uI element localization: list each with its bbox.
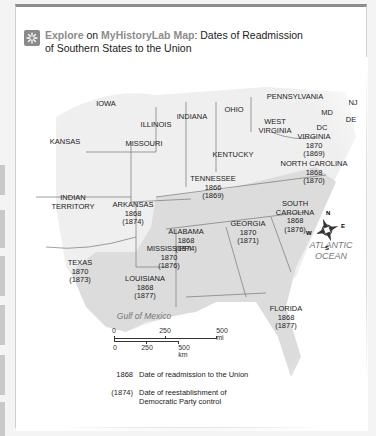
state-label-nj: NJ: [348, 99, 357, 108]
explore-link[interactable]: Explore: [45, 29, 84, 41]
state-label-ohio: OHIO: [224, 106, 243, 115]
scale-mi-250: 250: [159, 327, 171, 334]
state-label-indiana: INDIANA: [177, 113, 207, 122]
state-label-indian-territory: INDIAN TERRITORY: [51, 194, 94, 211]
state-label-md: MD: [321, 109, 333, 118]
fl-democratic: (1877): [275, 321, 297, 330]
legend-readmission: 1868Date of readmission to the Union: [109, 370, 248, 379]
map-canvas: IOWA ILLINOIS INDIANA OHIO PENNSYLVANIA …: [16, 57, 368, 431]
legend-text-democratic-2: Democratic Party control: [139, 397, 221, 406]
state-label-iowa: IOWA: [96, 100, 116, 109]
side-tab: [0, 165, 5, 195]
title-line2: of Southern States to the Union: [45, 42, 192, 54]
ga-democratic: (1871): [237, 236, 259, 245]
scale-km-0: 0: [113, 344, 117, 351]
nc-democratic: (1870): [303, 176, 325, 185]
compass-w: W: [306, 230, 312, 236]
side-tab: [0, 355, 5, 395]
side-tab: [0, 402, 5, 436]
compass-rose-icon: N E S W: [312, 215, 342, 245]
it-line2: TERRITORY: [51, 202, 94, 211]
state-label-south-carolina: SOUTH CAROLINA 1868 (1876): [276, 200, 314, 234]
scale-km-500: 500 km: [178, 344, 190, 358]
state-label-north-carolina: NORTH CAROLINA 1868 (1870): [281, 160, 348, 186]
ar-democratic: (1874): [122, 217, 144, 226]
legend-text-readmission: Date of readmission to the Union: [139, 370, 248, 379]
title-line1: : Dates of Readmission: [194, 29, 303, 41]
scale-mi-500: 500 mi: [216, 327, 228, 341]
la-democratic: (1877): [134, 291, 156, 300]
compass-s: S: [325, 245, 329, 251]
scale-mi-0: 0: [112, 327, 116, 334]
side-tab: [0, 210, 5, 248]
figure-title: Explore on MyHistoryLab Map: Dates of Re…: [24, 29, 346, 55]
state-label-virginia: VIRGINIA 1870 (1869): [298, 133, 331, 159]
state-label-de: DE: [346, 116, 356, 125]
virginia-democratic: (1869): [303, 149, 325, 158]
sc-democratic: (1876): [284, 225, 306, 234]
legend-democratic: (1874) Date of reestablishment of Democr…: [102, 388, 227, 406]
state-label-pennsylvania: PENNSYLVANIA: [267, 93, 323, 102]
west-virginia-line2: VIRGINIA: [259, 126, 292, 135]
state-label-georgia: GEORGIA 1870 (1871): [230, 220, 265, 246]
scale-km-250: 250: [141, 344, 153, 351]
legend-key-democratic: (1874): [102, 388, 133, 397]
gulf-of-mexico-label: Gulf of Mexico: [117, 311, 171, 321]
ms-democratic: (1876): [158, 261, 180, 270]
myhistorylab-map-link[interactable]: MyHistoryLab Map: [101, 29, 194, 41]
atlantic-line2: OCEAN: [315, 251, 347, 261]
side-tab: [0, 305, 5, 345]
legend-key-readmission: 1868: [109, 370, 133, 379]
state-label-texas: TEXAS 1870 (1873): [68, 259, 93, 285]
state-label-kentucky: KENTUCKY: [213, 151, 254, 160]
tx-democratic: (1873): [69, 275, 91, 284]
state-label-louisiana: LOUISIANA 1868 (1877): [125, 275, 165, 301]
on-label: on: [86, 29, 98, 41]
explore-burst-icon[interactable]: [24, 30, 40, 46]
state-label-missouri: MISSOURI: [125, 140, 162, 149]
state-label-kansas: KANSAS: [50, 138, 80, 147]
state-label-mississippi: MISSISSIPPI 1870 (1876): [147, 245, 192, 271]
state-label-tennessee: TENNESSEE 1866 (1869): [190, 175, 235, 201]
compass-n: N: [326, 210, 330, 216]
state-label-arkansas: ARKANSAS 1868 (1874): [113, 201, 154, 227]
state-label-west-virginia: WEST VIRGINIA: [259, 118, 292, 135]
state-label-illinois: ILLINOIS: [141, 121, 172, 130]
compass-e: E: [341, 223, 345, 229]
state-label-florida: FLORIDA 1868 (1877): [270, 305, 303, 331]
legend-text-democratic-1: Date of reestablishment of: [139, 388, 227, 397]
map-figure: Explore on MyHistoryLab Map: Dates of Re…: [15, 4, 367, 428]
side-tab: [0, 256, 5, 296]
tn-democratic: (1869): [202, 191, 224, 200]
